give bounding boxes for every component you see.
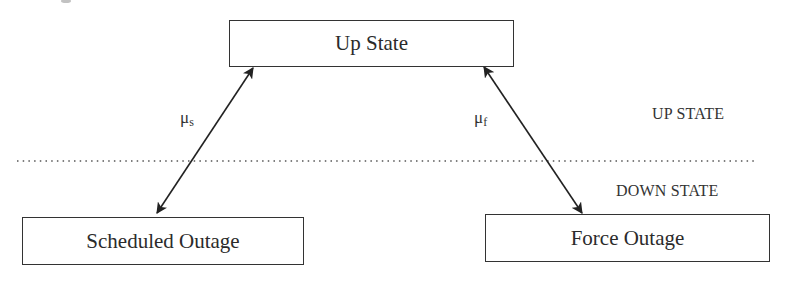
mu-symbol: μ xyxy=(474,108,483,127)
scheduled-outage-box: Scheduled Outage xyxy=(22,217,304,265)
mu-symbol: μ xyxy=(180,108,189,127)
rate-label-mu-f: μf xyxy=(474,108,487,130)
arrow-up-scheduled xyxy=(157,68,253,213)
arrow-up-forced xyxy=(484,67,582,213)
up-state-region-label: UP STATE xyxy=(652,105,724,123)
up-state-box: Up State xyxy=(229,20,514,67)
scan-artifact xyxy=(61,0,71,3)
force-outage-label: Force Outage xyxy=(571,226,685,251)
force-outage-box: Force Outage xyxy=(485,214,770,262)
up-state-label: Up State xyxy=(335,31,408,56)
mu-subscript-f: f xyxy=(483,115,487,129)
mu-subscript-s: s xyxy=(189,115,194,129)
scheduled-outage-label: Scheduled Outage xyxy=(86,229,239,254)
down-state-region-label: DOWN STATE xyxy=(616,182,718,200)
state-transition-diagram: Up State Scheduled Outage Force Outage μ… xyxy=(0,0,785,282)
rate-label-mu-s: μs xyxy=(180,108,194,130)
